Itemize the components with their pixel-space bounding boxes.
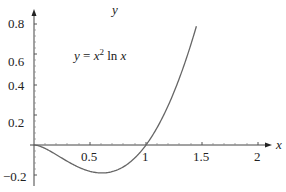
y-tick-label-0.8: 0.8: [8, 17, 24, 30]
x-tick-label-2: 2: [254, 150, 261, 163]
y-tick-label-0.2: 0.2: [8, 116, 24, 129]
eq-ln: ln: [104, 48, 121, 63]
x-axis-arrow-icon: [265, 143, 272, 148]
y-axis-label: y: [112, 3, 118, 16]
equation-annotation: y = x2 ln x: [74, 47, 126, 64]
eq-equals: =: [80, 48, 94, 63]
x-tick-label-1.5: 1.5: [193, 150, 209, 163]
x-tick-label-1: 1: [142, 150, 149, 163]
y-axis-arrow-icon: [32, 9, 37, 16]
x-axis-label: x: [276, 138, 282, 151]
y-tick-label-neg0.2: −0.2: [3, 170, 27, 183]
x-tick-label-0.5: 0.5: [81, 150, 97, 163]
eq-x2: x: [121, 48, 127, 63]
y-tick-label-0.6: 0.6: [8, 55, 24, 68]
y-tick-label-0.4: 0.4: [8, 79, 24, 92]
